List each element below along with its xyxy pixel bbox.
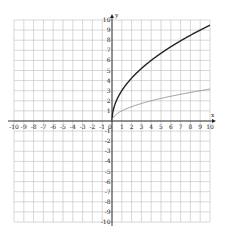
y-tick-label: -7 [105, 188, 111, 195]
x-tick-label: 4 [149, 123, 153, 130]
x-tick-label: -9 [21, 123, 27, 130]
x-tick-label: -7 [40, 123, 46, 130]
y-tick-label: -1 [105, 127, 111, 134]
x-axis-label: x [211, 111, 215, 118]
y-tick-label: -9 [105, 208, 111, 215]
x-tick-label: -5 [60, 123, 66, 130]
y-tick-label: 4 [107, 77, 111, 84]
x-tick-label: -3 [80, 123, 86, 130]
y-tick-label: 3 [107, 87, 111, 94]
x-tick-label: 7 [179, 123, 183, 130]
y-tick-label: -10 [101, 218, 111, 225]
y-tick-label: -3 [105, 147, 111, 154]
x-tick-label: -10 [9, 123, 19, 130]
y-tick-label: 7 [107, 46, 111, 53]
x-tick-label: -2 [89, 123, 95, 130]
y-tick-label: 10 [103, 16, 111, 23]
x-tick-label: -6 [50, 123, 56, 130]
x-tick-label: 2 [130, 123, 134, 130]
x-tick-label: 1 [120, 123, 124, 130]
coordinate-plane: -10-9-8-7-6-5-4-3-2-1012345678910-10-9-8… [0, 0, 225, 241]
y-tick-label: -2 [105, 137, 111, 144]
y-tick-label: 2 [107, 97, 111, 104]
x-tick-label: 9 [198, 123, 202, 130]
x-tick-label: 8 [188, 123, 192, 130]
y-axis-label: y [114, 11, 119, 19]
y-tick-label: -8 [105, 198, 111, 205]
x-tick-label: -8 [31, 123, 37, 130]
y-tick-label: 8 [107, 36, 111, 43]
y-tick-label: 5 [107, 67, 111, 74]
y-tick-label: -5 [105, 168, 111, 175]
y-tick-label: -6 [105, 178, 111, 185]
y-arrow-icon [110, 14, 114, 18]
y-tick-label: 1 [107, 107, 111, 114]
x-tick-label: -4 [70, 123, 76, 130]
y-tick-label: -4 [105, 157, 111, 164]
x-tick-label: 10 [206, 123, 214, 130]
x-tick-label: 3 [139, 123, 143, 130]
x-tick-label: 5 [159, 123, 163, 130]
y-tick-label: 6 [107, 56, 111, 63]
y-tick-label: 9 [107, 26, 111, 33]
x-tick-label: 6 [169, 123, 173, 130]
